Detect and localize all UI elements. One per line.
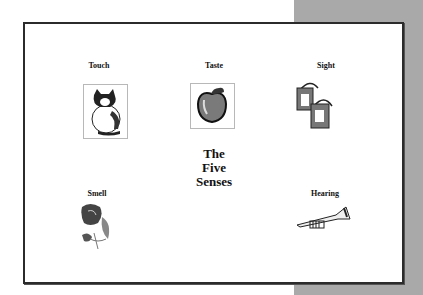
cat-icon: [83, 84, 128, 139]
label-hearing: Hearing: [285, 189, 365, 198]
apple-icon: [190, 83, 235, 129]
slide-title: The Five Senses: [174, 147, 254, 189]
label-taste: Taste: [174, 61, 254, 70]
label-smell: Smell: [57, 189, 137, 198]
title-line: Five: [174, 161, 254, 175]
label-sight: Sight: [286, 61, 366, 70]
rose-icon: [80, 203, 120, 251]
title-line: Senses: [174, 175, 254, 189]
label-touch: Touch: [59, 61, 139, 70]
paint-cans-icon: [296, 80, 336, 130]
trumpet-icon: [296, 205, 351, 231]
title-line: The: [174, 147, 254, 161]
